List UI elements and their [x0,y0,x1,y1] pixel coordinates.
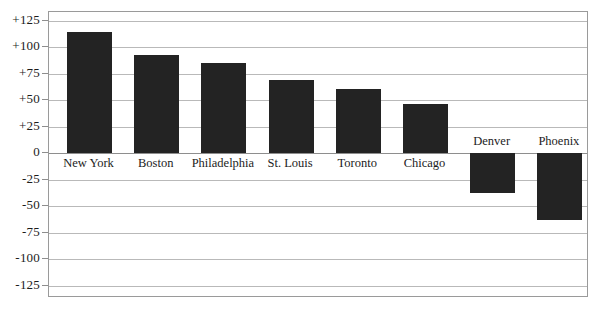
y-axis-tick-label: -100 [0,251,40,264]
y-axis-tick-label: +50 [0,92,40,105]
gridline [49,74,587,75]
y-axis-tick-label: +25 [0,119,40,132]
gridline [49,100,587,101]
category-label: Toronto [321,156,394,170]
gridline [49,233,587,234]
y-axis-tick-label: -75 [0,225,40,238]
bar [403,104,448,154]
gridline [49,127,587,128]
y-axis-tick-label: +100 [0,39,40,52]
category-label: Chicago [388,156,461,170]
category-label: Phoenix [522,134,595,148]
bar [201,63,246,153]
bar [336,89,381,154]
gridline [49,286,587,287]
y-axis-tick-label: -125 [0,278,40,291]
bar [134,55,179,154]
y-axis-tick-label: 0 [0,145,40,158]
category-label: Boston [119,156,192,170]
category-label: Philadelphia [186,156,259,170]
plot-area [48,11,588,297]
gridline [49,21,587,22]
category-label: Denver [455,134,528,148]
y-axis-tick-label: +75 [0,66,40,79]
y-axis-tick-label: -25 [0,172,40,185]
category-label: St. Louis [254,156,327,170]
y-axis-tick-label: +125 [0,13,40,26]
bar [67,32,112,154]
bar [470,153,515,192]
category-label: New York [52,156,125,170]
bar [269,80,314,153]
y-axis-tick-label: -50 [0,198,40,211]
gridline [49,47,587,48]
gridline [49,206,587,207]
bar [537,153,582,220]
bar-chart: +125+100+75+50+250-25-50-75-100-125 New … [0,0,599,314]
gridline [49,259,587,260]
